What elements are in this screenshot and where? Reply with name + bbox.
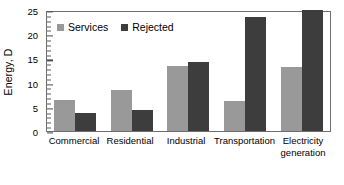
bar-group	[273, 12, 330, 131]
y-axis-title: Energy, D	[0, 0, 16, 143]
x-axis-tick-label-line: Industrial	[158, 135, 214, 147]
legend-label: Rejected	[132, 21, 173, 33]
bar-rejected[interactable]	[302, 10, 323, 131]
x-axis-tick-label: Commercial	[46, 135, 102, 158]
bar-services[interactable]	[167, 66, 188, 131]
y-axis-tick-label: 10	[27, 78, 38, 89]
bar-chart: Energy, D 0510152025 CommercialResidenti…	[0, 0, 344, 185]
legend-swatch-icon	[57, 24, 64, 31]
chart-legend: ServicesRejected	[57, 21, 174, 33]
x-axis-tick-label-line: generation	[275, 147, 331, 159]
y-axis-tick-label: 25	[27, 6, 38, 17]
bar-group	[217, 12, 274, 131]
y-axis-major-tick	[47, 132, 53, 133]
legend-entry[interactable]: Services	[57, 21, 108, 33]
bar-services[interactable]	[111, 90, 132, 131]
y-axis-tick-labels: 0510152025	[16, 11, 42, 132]
bar-rejected[interactable]	[245, 17, 266, 131]
y-axis-tick-label: 5	[33, 102, 38, 113]
x-axis-tick-label: Electricitygeneration	[275, 135, 331, 158]
x-axis-tick-label-line: Transportation	[214, 135, 275, 147]
legend-entry[interactable]: Rejected	[121, 21, 173, 33]
x-axis-tick-label-line: Electricity	[275, 135, 331, 147]
y-axis-tick-label: 0	[33, 127, 38, 138]
bar-rejected[interactable]	[132, 110, 153, 131]
x-axis-tick-label: Industrial	[158, 135, 214, 158]
bar-services[interactable]	[54, 100, 75, 131]
x-axis-tick-label-line: Residential	[102, 135, 158, 147]
y-axis-tick-label: 15	[27, 54, 38, 65]
bar-rejected[interactable]	[75, 113, 96, 131]
legend-swatch-icon	[121, 24, 128, 31]
bar-services[interactable]	[281, 67, 302, 131]
x-axis-tick-label: Transportation	[214, 135, 275, 158]
x-axis-tick-label-line: Commercial	[46, 135, 102, 147]
y-axis-tick-label: 20	[27, 30, 38, 41]
bar-services[interactable]	[224, 101, 245, 131]
legend-label: Services	[68, 21, 108, 33]
x-axis-tick-label: Residential	[102, 135, 158, 158]
y-axis-title-text: Energy, D	[2, 48, 14, 95]
x-axis-tick-labels: CommercialResidentialIndustrialTransport…	[46, 135, 331, 158]
bar-rejected[interactable]	[188, 62, 209, 131]
